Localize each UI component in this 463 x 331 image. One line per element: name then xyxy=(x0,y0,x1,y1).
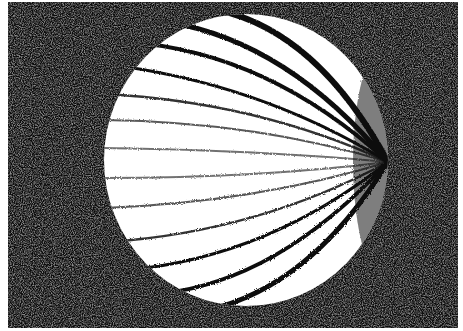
photo-frame: Grainy black-and-white photograph of a w… xyxy=(8,2,458,328)
striped-sphere-photo xyxy=(8,2,458,328)
